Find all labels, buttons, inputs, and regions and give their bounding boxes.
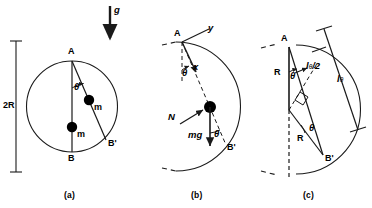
label-chord: lθ [337,68,343,86]
panel-c [261,26,366,178]
label-point-b-prime-b: B' [227,142,236,152]
mass-on-diameter [67,122,77,132]
mass-on-chord [84,95,94,105]
normal-force-arrow [180,110,203,124]
label-point-b: B [68,153,75,163]
label-mass-chord: m [94,102,102,112]
label-point-a-c: A [281,33,288,43]
label-point-b-prime-c: B' [325,153,334,163]
caption-b: (b) [191,190,202,200]
arc-dashes-b [162,42,176,171]
label-radius-top: R [274,67,281,77]
label-radius-bottom: R [297,133,304,143]
label-angle-theta-a: θ [74,81,79,92]
panel-a [10,6,118,172]
figure-svg [0,0,372,208]
label-axis-y: y [208,22,213,33]
label-point-b-prime: B' [108,138,117,148]
chord-subscript: θ [340,76,344,83]
label-point-a-b: A [174,28,181,38]
label-half-chord: lθ/2 [306,55,320,73]
label-normal-force-n: N [168,111,175,122]
label-point-a: A [68,46,75,56]
arc-dashes-c [261,44,277,175]
caption-a: (a) [64,190,75,200]
caption-c: (c) [303,190,314,200]
physics-figure: 2R A B B' m m θ g (a) A B' y x θ N mg θ … [0,0,372,208]
label-axis-x: x [193,61,198,72]
radius-to-chord-end [289,110,323,155]
label-angle-theta-b-bottom: θ [214,128,219,139]
label-angle-theta-b-top: θ [182,67,187,78]
label-diameter-2r: 2R [3,100,15,110]
label-gravity-g: g [114,4,120,15]
label-weight-mg: mg [188,129,202,140]
label-angle-theta-c-top: θ [290,70,295,81]
label-angle-theta-c-bottom: θ [309,122,314,133]
label-mass-diameter: m [77,129,85,139]
axis-y-arrow [182,29,209,42]
half-chord-divisor: /2 [312,60,320,71]
